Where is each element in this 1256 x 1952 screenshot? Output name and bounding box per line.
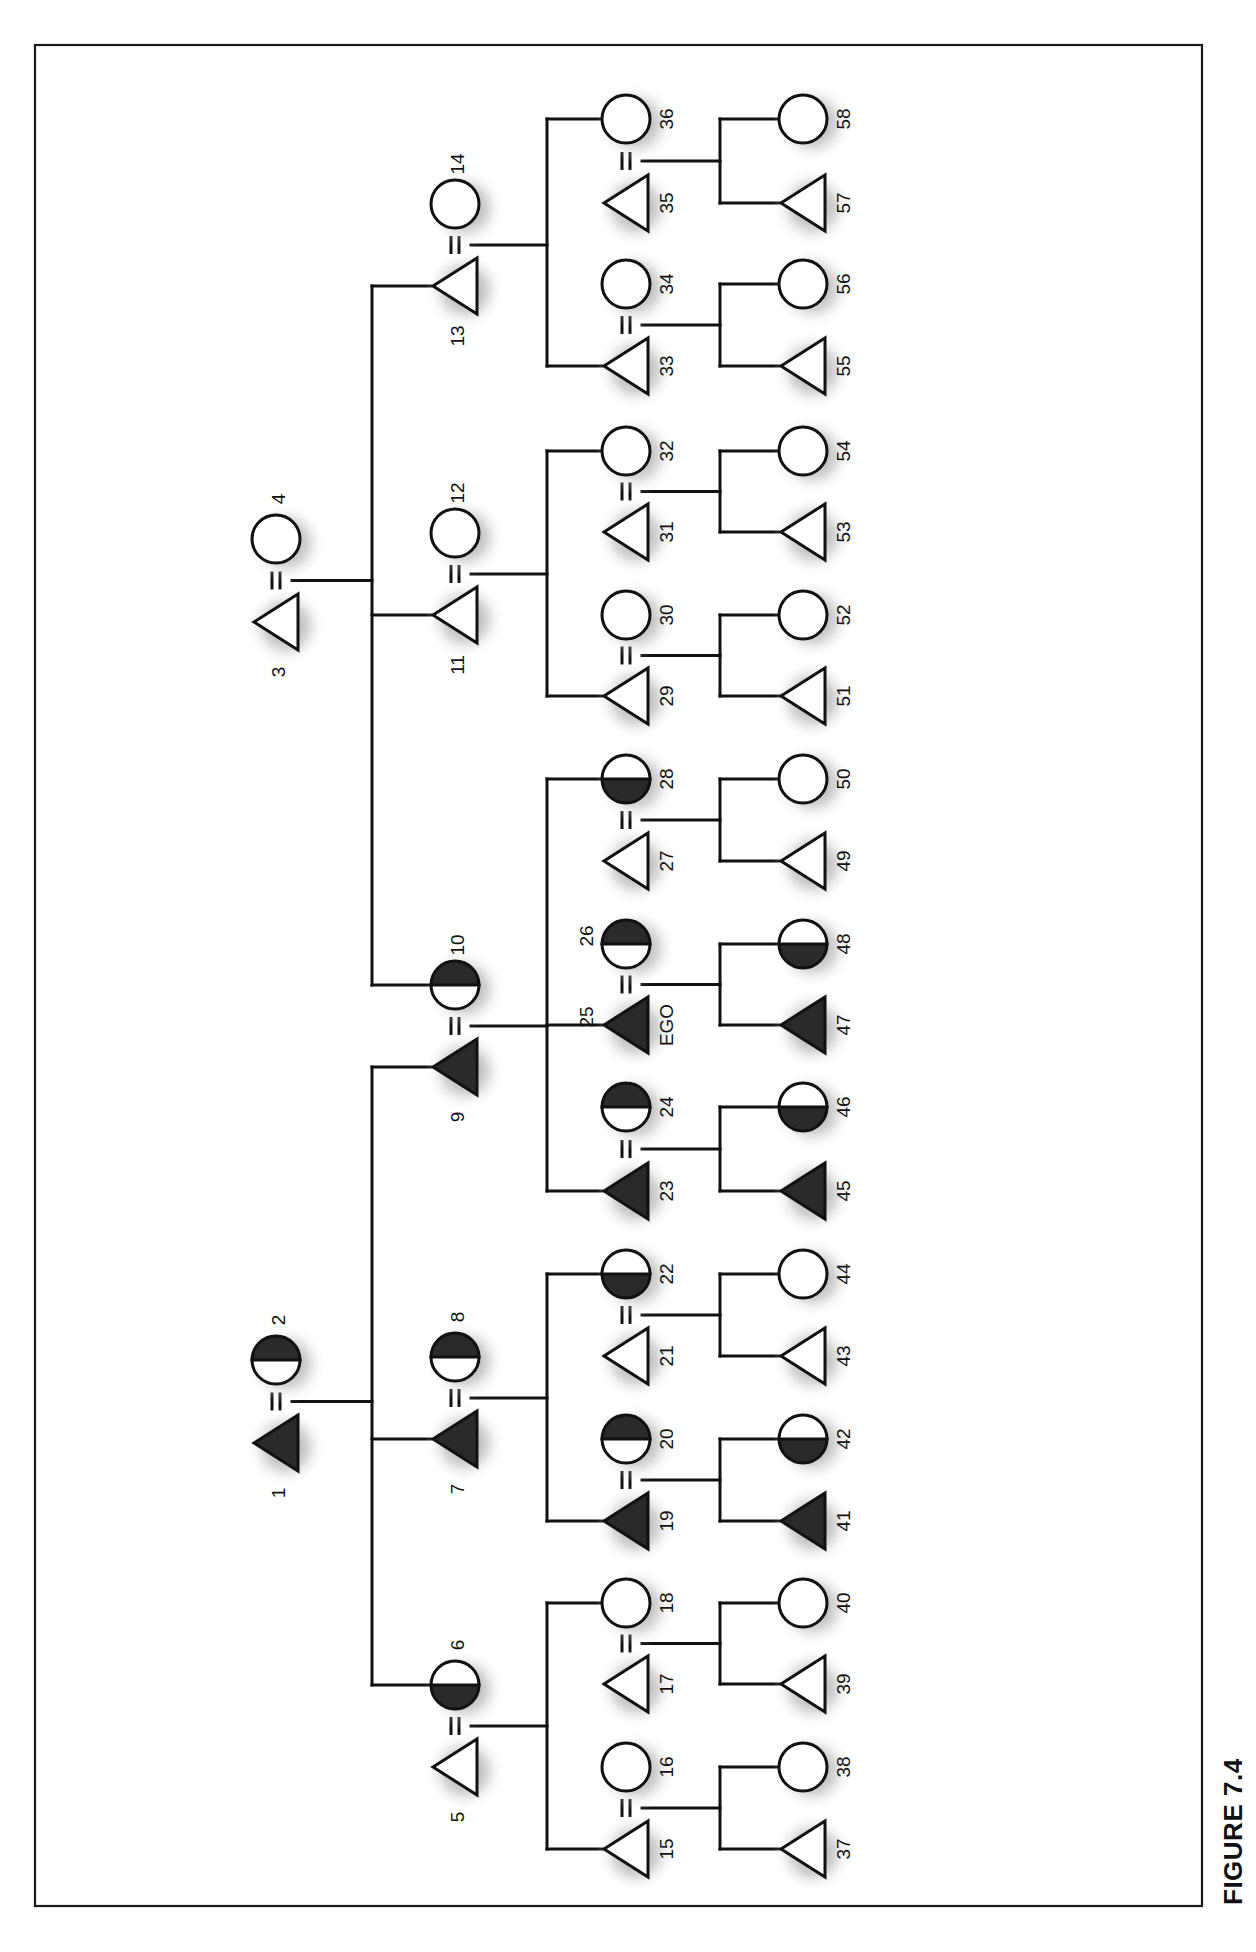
person-label: 16 [656,1756,677,1777]
person-label: 17 [656,1673,677,1694]
person-34[interactable]: 34 [596,248,677,328]
person-40[interactable]: 40 [773,1567,854,1647]
person-57[interactable]: 57 [773,167,854,247]
person-46[interactable]: 46 [773,1071,854,1151]
person-27[interactable]: 27 [596,825,677,905]
person-label: 50 [833,768,854,789]
kinship-diagram-svg: 1234567891011121314151617181920212223242… [0,0,1256,1952]
person-43[interactable]: 43 [773,1320,854,1400]
person-9[interactable]: 9 [425,1031,505,1122]
person-25[interactable]: 25EGO [576,989,677,1069]
person-20[interactable]: 20 [596,1403,677,1483]
person-label: 8 [447,1312,468,1323]
person-label: 39 [833,1673,854,1694]
person-label: 1 [268,1488,289,1499]
person-44[interactable]: 44 [773,1238,854,1318]
person-label: 35 [656,192,677,213]
person-16[interactable]: 16 [596,1731,677,1811]
person-label: 37 [833,1838,854,1859]
person-37[interactable]: 37 [773,1813,854,1893]
figure-caption: FIGURE 7.4 [1218,1758,1249,1905]
person-14[interactable]: 14 [425,153,505,248]
kinship-nodes: 1234567891011121314151617181920212223242… [246,83,854,1893]
person-label: 25 [576,1006,597,1027]
person-label: 14 [447,153,468,175]
person-label: 30 [656,604,677,625]
person-38[interactable]: 38 [773,1731,854,1811]
person-53[interactable]: 53 [773,496,854,576]
person-30[interactable]: 30 [596,579,677,659]
person-label: 32 [656,440,677,461]
person-label: 13 [447,325,468,346]
person-4[interactable]: 4 [246,493,326,583]
person-label: 10 [447,934,468,955]
person-19[interactable]: 19 [596,1485,677,1565]
person-26[interactable]: 26 [576,908,677,988]
person-label: 41 [833,1510,854,1531]
person-label: 42 [833,1428,854,1449]
person-label: 34 [656,273,677,295]
person-label: 18 [656,1592,677,1613]
person-6[interactable]: 6 [425,1640,505,1729]
person-22[interactable]: 22 [596,1238,677,1318]
person-label: 6 [447,1640,468,1651]
person-label: 15 [656,1838,677,1859]
person-label: 7 [447,1484,468,1495]
person-label: 38 [833,1756,854,1777]
person-35[interactable]: 35 [596,167,677,247]
person-label: 27 [656,850,677,871]
person-24[interactable]: 24 [596,1071,677,1151]
person-28[interactable]: 28 [596,743,677,823]
person-label: 52 [833,604,854,625]
person-7[interactable]: 7 [425,1403,505,1494]
person-label: 22 [656,1263,677,1284]
person-label: 3 [268,667,289,678]
person-17[interactable]: 17 [596,1648,677,1728]
person-23[interactable]: 23 [596,1155,677,1235]
person-49[interactable]: 49 [773,825,854,905]
person-36[interactable]: 36 [596,83,677,163]
person-41[interactable]: 41 [773,1485,854,1565]
person-50[interactable]: 50 [773,743,854,823]
person-label: 29 [656,685,677,706]
person-label: 11 [447,655,468,675]
person-13[interactable]: 13 [425,250,505,347]
person-42[interactable]: 42 [773,1403,854,1483]
person-label: 20 [656,1428,677,1449]
person-29[interactable]: 29 [596,660,677,740]
person-56[interactable]: 56 [773,248,854,328]
person-45[interactable]: 45 [773,1155,854,1235]
person-label: 21 [656,1345,677,1366]
person-label: 4 [268,493,289,504]
person-label: 9 [447,1112,468,1123]
person-label: 58 [833,108,854,129]
person-label: 5 [447,1812,468,1823]
person-8[interactable]: 8 [425,1312,505,1401]
person-32[interactable]: 32 [596,415,677,495]
person-15[interactable]: 15 [596,1813,677,1893]
person-label: 40 [833,1592,854,1613]
person-21[interactable]: 21 [596,1320,677,1400]
person-5[interactable]: 5 [425,1731,505,1822]
person-55[interactable]: 55 [773,330,854,410]
person-label: 2 [268,1315,289,1326]
person-47[interactable]: 47 [773,989,854,1069]
person-10[interactable]: 10 [425,934,505,1029]
person-48[interactable]: 48 [773,908,854,988]
person-label: 19 [656,1510,677,1531]
person-2[interactable]: 2 [246,1315,326,1404]
person-12[interactable]: 12 [425,482,505,577]
person-1[interactable]: 1 [246,1407,326,1498]
person-39[interactable]: 39 [773,1648,854,1728]
person-54[interactable]: 54 [773,415,854,495]
person-label: 47 [833,1014,854,1035]
person-18[interactable]: 18 [596,1567,677,1647]
person-11[interactable]: 11 [425,579,505,675]
person-31[interactable]: 31 [596,496,677,576]
person-label: 43 [833,1345,854,1366]
person-33[interactable]: 33 [596,330,677,410]
person-58[interactable]: 58 [773,83,854,163]
person-3[interactable]: 3 [246,586,326,677]
person-51[interactable]: 51 [773,660,854,740]
person-52[interactable]: 52 [773,579,854,659]
